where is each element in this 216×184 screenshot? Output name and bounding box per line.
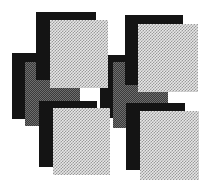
top-left-light-dither-rect — [50, 20, 108, 88]
artwork-canvas — [0, 0, 216, 184]
top-right-light-dither-rect — [138, 24, 198, 92]
bottom-right-light-dither-rect — [140, 111, 199, 180]
bottom-left-light-dither-rect — [53, 108, 110, 175]
